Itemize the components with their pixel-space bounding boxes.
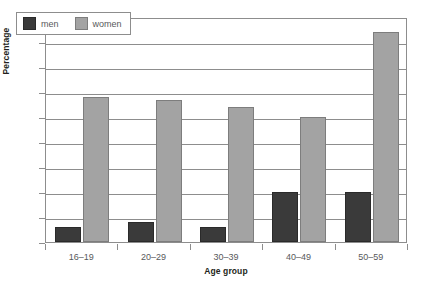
x-axis-tick-label: 50–59 xyxy=(335,252,407,262)
bar-men-2 xyxy=(200,227,226,242)
women-swatch-icon xyxy=(75,17,88,30)
x-axis-tick-mark xyxy=(45,244,46,250)
legend-item-women: women xyxy=(75,17,122,30)
legend-label-women: women xyxy=(93,19,122,29)
x-axis-tick-mark xyxy=(190,244,191,250)
bar-women-2 xyxy=(228,107,254,242)
legend-label-men: men xyxy=(41,19,59,29)
bar-women-1 xyxy=(156,100,182,243)
x-axis-tick-mark xyxy=(407,244,408,250)
bar-men-1 xyxy=(128,222,154,242)
x-axis-tick-label: 20–29 xyxy=(118,252,190,262)
bar-women-4 xyxy=(373,32,399,242)
bar-men-3 xyxy=(272,192,298,242)
bar-men-0 xyxy=(55,227,81,242)
plot-area xyxy=(45,18,407,243)
chart-legend: men women xyxy=(16,12,131,35)
bar-series-container xyxy=(46,19,406,242)
x-axis-tick-mark xyxy=(117,244,118,250)
x-axis-tick-mark xyxy=(262,244,263,250)
bar-chart: Percentage 051015202530354045 16–1920–29… xyxy=(0,0,423,283)
x-axis-tick-mark xyxy=(335,244,336,250)
legend-item-men: men xyxy=(23,17,59,30)
bar-women-3 xyxy=(300,117,326,242)
men-swatch-icon xyxy=(23,17,36,30)
bar-women-0 xyxy=(83,97,109,242)
y-axis-title: Percentage xyxy=(1,6,11,96)
x-axis-tick-label: 40–49 xyxy=(262,252,334,262)
x-axis-tick-label: 30–39 xyxy=(190,252,262,262)
bar-men-4 xyxy=(345,192,371,242)
x-axis-tick-label: 16–19 xyxy=(45,252,117,262)
x-axis-title: Age group xyxy=(45,266,407,276)
